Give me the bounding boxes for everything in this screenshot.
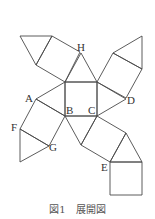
label-a: A [25, 92, 33, 104]
fg-triangle [20, 129, 49, 162]
label-e: E [101, 161, 108, 173]
bc-lower-triangle [65, 116, 97, 145]
label-d: D [127, 94, 135, 106]
net-edges [20, 36, 142, 195]
label-g: G [49, 141, 57, 153]
label-c: C [88, 104, 95, 116]
vertex-labels: H A B C D F G E [11, 41, 135, 173]
d-triangle [97, 82, 126, 116]
e-triangle [110, 133, 142, 162]
top-right-triangle [113, 36, 142, 69]
label-f: F [11, 121, 17, 133]
lower-right-square [81, 116, 126, 162]
upper-left-square [36, 36, 80, 82]
h-triangle [65, 53, 97, 82]
net-diagram: H A B C D F G E [0, 0, 155, 219]
label-h: H [77, 41, 85, 53]
a-triangle [36, 82, 65, 116]
figure-caption: 図1 展開図 [0, 201, 155, 216]
bottom-square [110, 162, 142, 195]
upper-right-square [97, 53, 142, 98]
top-left-triangle [20, 36, 52, 65]
label-b: B [66, 104, 73, 116]
left-square [20, 99, 65, 146]
